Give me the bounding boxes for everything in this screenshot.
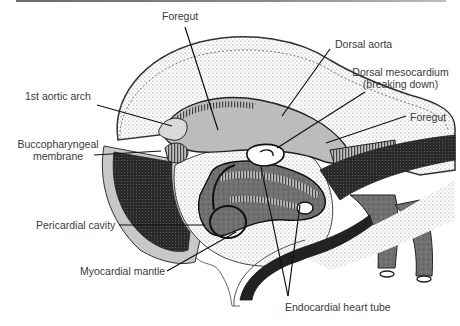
label-dorsal-mesocardium: Dorsal mesocardium (breaking down)	[343, 66, 458, 90]
label-foregut-top: Foregut	[162, 10, 198, 22]
label-buccopharyngeal-membrane: Buccopharyngeal membrane	[14, 138, 102, 162]
label-first-aortic-arch: 1st aortic arch	[25, 90, 91, 102]
label-dorsal-aorta: Dorsal aorta	[335, 38, 392, 50]
label-myocardial-mantle: Myocardial mantle	[80, 265, 165, 277]
label-buccopharyngeal-line2: membrane	[14, 150, 102, 162]
label-endocardial-heart-tube: Endocardial heart tube	[285, 301, 391, 313]
label-dorsal-mesocardium-line1: Dorsal mesocardium	[343, 66, 458, 78]
label-dorsal-mesocardium-line2: (breaking down)	[343, 78, 458, 90]
label-pericardial-cavity: Pericardial cavity	[36, 219, 115, 231]
label-foregut-right: Foregut	[410, 111, 446, 123]
label-buccopharyngeal-line1: Buccopharyngeal	[14, 138, 102, 150]
